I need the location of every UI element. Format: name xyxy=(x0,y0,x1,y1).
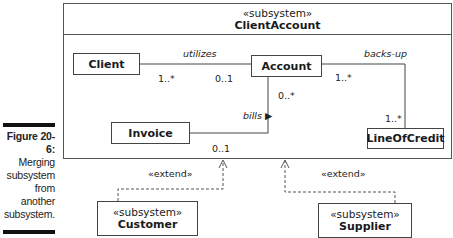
subsystem-supplier[interactable]: «subsystem» Supplier xyxy=(318,203,412,238)
multiplicity-account-bills: 0..* xyxy=(278,90,295,101)
extend-label-supplier: «extend» xyxy=(321,168,366,179)
supplier-stereotype: «subsystem» xyxy=(330,208,400,220)
subsystem-customer[interactable]: «subsystem» Customer xyxy=(97,201,198,236)
multiplicity-account-backsup: 1..* xyxy=(335,72,352,83)
customer-stereotype: «subsystem» xyxy=(113,206,183,218)
supplier-name: Supplier xyxy=(339,220,391,233)
multiplicity-account-utilizes: 0..1 xyxy=(215,73,233,84)
class-client[interactable]: Client xyxy=(73,53,140,75)
multiplicity-lineofcredit: 1..* xyxy=(385,113,402,124)
association-utilizes-label: utilizes xyxy=(183,48,216,59)
class-account[interactable]: Account xyxy=(251,55,322,77)
association-backsup-label: backs-up xyxy=(364,48,407,59)
class-lineofcredit[interactable]: LineOfCredit xyxy=(367,128,444,149)
class-invoice[interactable]: Invoice xyxy=(111,122,190,144)
multiplicity-invoice: 0..1 xyxy=(212,143,230,154)
customer-name: Customer xyxy=(118,218,178,231)
extend-label-customer: «extend» xyxy=(148,168,193,179)
association-bills-label: bills ▶ xyxy=(243,110,272,121)
multiplicity-client: 1..* xyxy=(158,73,175,84)
